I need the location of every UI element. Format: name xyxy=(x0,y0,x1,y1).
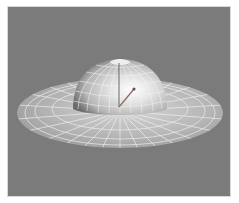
3d-viewport[interactable] xyxy=(7,6,231,197)
gizmo-handle-icon[interactable] xyxy=(132,87,135,90)
scene-render xyxy=(7,6,231,197)
